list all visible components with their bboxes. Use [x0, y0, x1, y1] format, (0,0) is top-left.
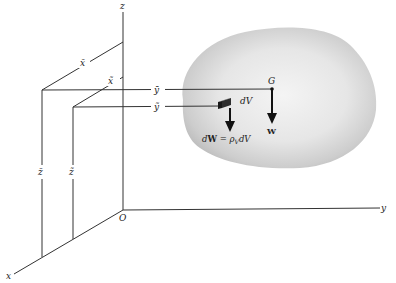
x-tilde-label: x̃	[108, 76, 113, 86]
y-axis	[123, 208, 380, 210]
origin-label: O	[119, 213, 127, 223]
diagram-canvas: z y x O x̄ x̃ ȳ ỹ z̄ z̃ G W dV dW = ρVdV	[0, 0, 396, 283]
weight-label: W	[266, 126, 277, 136]
volume-element-label: dV	[240, 96, 254, 106]
y-bar-label: ȳ	[153, 85, 160, 95]
z-axis-label: z	[119, 1, 125, 11]
rigid-body	[182, 28, 376, 169]
x-bar-label: x̄	[80, 58, 85, 68]
y-tilde-label: ỹ	[153, 102, 160, 112]
center-of-gravity-label: G	[268, 76, 275, 86]
center-of-gravity-diagram: z y x O x̄ x̃ ȳ ỹ z̄ z̃ G W dV dW = ρVdV	[0, 0, 396, 283]
y-axis-label: y	[380, 203, 387, 213]
z-tilde-label: z̃	[68, 167, 74, 177]
x-axis	[14, 210, 123, 274]
z-bar-label: z̄	[37, 167, 43, 177]
element-weight-equation: dW = ρVdV	[202, 134, 251, 145]
x-axis-label: x	[6, 271, 11, 281]
